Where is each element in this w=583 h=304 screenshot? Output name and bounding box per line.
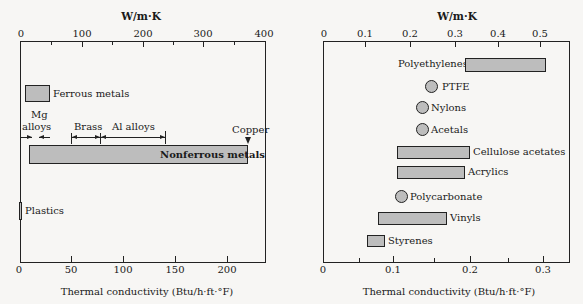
left-bottom-tick-label: 0 — [16, 264, 22, 275]
right-bottom-tick-label: 0.2 — [462, 264, 478, 275]
ptfe-marker — [425, 80, 438, 93]
arrow-right-icon — [27, 135, 32, 139]
right-bottom-tick-label: 0.1 — [385, 264, 401, 275]
tick — [410, 41, 411, 47]
right-top-tick-label: 0.5 — [532, 28, 548, 39]
tick — [227, 256, 228, 262]
right-top-tick-label: 0.4 — [490, 28, 506, 39]
polyethylenes-label: Polyethylenes — [398, 58, 468, 69]
mg-alloys-label-line1: Mg — [31, 109, 48, 120]
right-top-tick-label: 0.1 — [357, 28, 373, 39]
tick — [470, 256, 471, 262]
tick — [82, 41, 83, 47]
vinyls-bar — [378, 212, 447, 225]
left-top-tick-label: 0 — [18, 28, 24, 39]
copper-label: Copper — [232, 124, 269, 135]
tick — [540, 41, 541, 47]
ferrous-metals-bar — [25, 85, 50, 102]
styrenes-label: Styrenes — [388, 235, 433, 246]
right-bottom-tick-label: 0 — [320, 264, 326, 275]
left-top-tick-label: 100 — [72, 28, 91, 39]
nonferrous-metals-label: Nonferrous metals — [160, 149, 265, 160]
tick — [455, 41, 456, 47]
ferrous-metals-label: Ferrous metals — [53, 88, 129, 99]
tick — [123, 256, 124, 262]
styrenes-bar — [367, 235, 385, 247]
left-top-tick-label: 300 — [193, 28, 212, 39]
right-top-tick-label: 0.2 — [402, 28, 418, 39]
right-bottom-tick-label: 0.3 — [535, 264, 551, 275]
right-x-axis-label: Thermal conductivity (Btu/h·ft·°F) — [363, 286, 535, 297]
arrow-left-icon — [39, 135, 44, 139]
left-x-axis-label: Thermal conductivity (Btu/h·ft·°F) — [61, 286, 233, 297]
tick — [543, 256, 544, 262]
acrylics-label: Acrylics — [468, 166, 508, 177]
tick — [203, 41, 204, 47]
tick — [393, 256, 394, 262]
nylons-marker — [416, 101, 429, 114]
ptfe-label: PTFE — [442, 81, 470, 92]
tick — [112, 41, 113, 45]
tick — [508, 258, 509, 262]
left-top-tick-label: 200 — [133, 28, 152, 39]
tick — [234, 41, 235, 45]
tick — [498, 41, 499, 47]
tick — [359, 258, 360, 262]
mg-alloys-label-line2: alloys — [22, 121, 51, 132]
cellulose-acetates-label: Cellulose acetates — [473, 146, 565, 157]
tick — [173, 41, 174, 45]
arrow-down-icon — [245, 137, 251, 144]
left-top-tick-label: 400 — [254, 28, 273, 39]
left-bottom-tick-label: 200 — [217, 264, 236, 275]
right-top-tick-label: 0.3 — [447, 28, 463, 39]
al-range-line — [101, 137, 165, 138]
plastics-bar — [19, 202, 22, 220]
brass-label: Brass — [74, 121, 102, 132]
arrow-left-icon — [101, 135, 106, 139]
left-bottom-tick-label: 100 — [113, 264, 132, 275]
left-top-unit: W/m·K — [121, 10, 161, 22]
right-top-unit: W/m·K — [437, 10, 477, 22]
acetals-marker — [416, 123, 429, 136]
tick — [365, 41, 366, 47]
nylons-label: Nylons — [431, 102, 466, 113]
polyethylenes-bar — [465, 58, 546, 72]
acetals-label: Acetals — [431, 124, 468, 135]
cellulose-acetates-bar — [397, 146, 470, 159]
polycarbonate-label: Polycarbonate — [410, 191, 482, 202]
acrylics-bar — [397, 166, 465, 179]
tick — [175, 256, 176, 262]
left-bottom-tick-label: 150 — [165, 264, 184, 275]
polycarbonate-marker — [395, 190, 408, 203]
right-top-tick-label: 0 — [321, 28, 327, 39]
arrow-left-icon — [72, 135, 77, 139]
al-bound — [165, 131, 166, 144]
tick — [51, 41, 52, 45]
left-bottom-tick-label: 50 — [65, 264, 78, 275]
vinyls-label: Vinyls — [450, 212, 481, 223]
tick — [434, 258, 435, 262]
plastics-label: Plastics — [25, 205, 64, 216]
tick — [143, 41, 144, 47]
tick — [71, 256, 72, 262]
al-alloys-label: Al alloys — [112, 121, 155, 132]
